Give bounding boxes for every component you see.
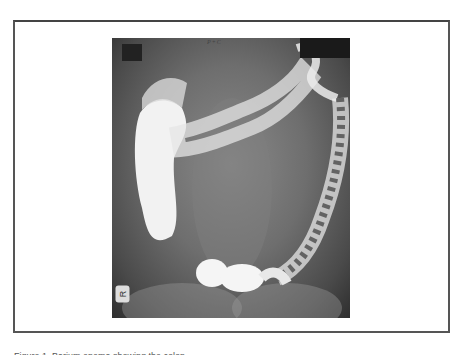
film-annotation: P+C — [207, 39, 222, 45]
xray-image: P+C R — [112, 38, 350, 318]
film-marker-top-left — [122, 44, 142, 61]
film-marker-top-right — [300, 38, 350, 58]
figure-caption: Figure 1. Barium enema showing the colon — [14, 350, 454, 355]
side-marker: R — [116, 286, 130, 303]
colon-illustration — [112, 38, 350, 318]
